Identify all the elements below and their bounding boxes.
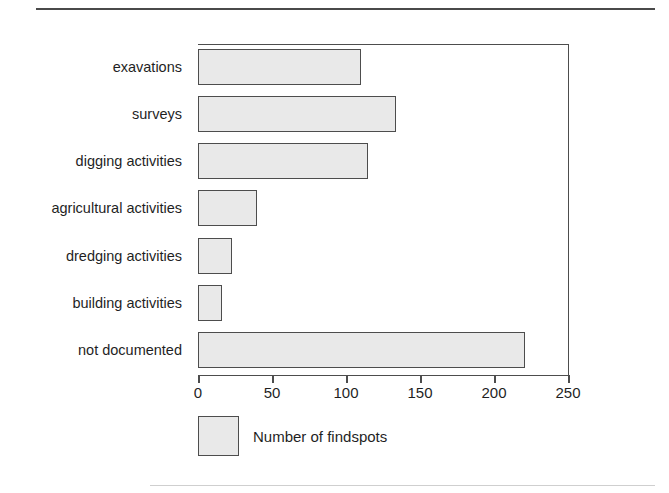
bar-row: [198, 185, 568, 232]
x-axis-tick: [346, 375, 348, 383]
legend-swatch-number-of-findspots: [198, 416, 239, 456]
x-axis-tick: [568, 375, 570, 383]
x-axis-tick: [272, 375, 274, 383]
bars-layer: [198, 44, 568, 374]
bar-agricultural-activities[interactable]: [198, 190, 257, 226]
x-axis: 0 50 100 150 200 250: [198, 375, 568, 409]
x-axis-tick: [420, 375, 422, 383]
x-axis-tick: [198, 375, 200, 383]
category-label-digging-activities: digging activities: [76, 138, 182, 185]
bar-chart-figure: exavations surveys digging activities ag…: [0, 0, 669, 493]
bar-row: [198, 327, 568, 374]
page-rule-top-icon: [36, 8, 655, 10]
x-axis-tick-label: 200: [481, 384, 506, 401]
bar-row: [198, 138, 568, 185]
bar-digging-activities[interactable]: [198, 143, 368, 179]
x-axis-tick-label: 150: [407, 384, 432, 401]
category-label-agricultural-activities: agricultural activities: [51, 185, 182, 232]
x-axis-tick-label: 50: [264, 384, 281, 401]
x-axis-tick: [494, 375, 496, 383]
page-rule-bottom-icon: [150, 485, 655, 486]
category-label-not-documented: not documented: [78, 327, 182, 374]
bar-row: [198, 280, 568, 327]
chart-legend: Number of findspots: [198, 416, 387, 456]
category-label-building-activities: building activities: [72, 280, 182, 327]
bar-dredging-activities[interactable]: [198, 238, 232, 274]
category-label-exavations: exavations: [113, 44, 182, 91]
bar-row: [198, 91, 568, 138]
category-label-dredging-activities: dredging activities: [66, 233, 182, 280]
legend-label-number-of-findspots: Number of findspots: [253, 428, 387, 445]
bar-surveys[interactable]: [198, 96, 396, 132]
x-axis-tick-label: 250: [555, 384, 580, 401]
bar-row: [198, 233, 568, 280]
x-axis-tick-label: 100: [333, 384, 358, 401]
category-label-surveys: surveys: [132, 91, 182, 138]
bar-not-documented[interactable]: [198, 332, 525, 368]
category-axis-labels: exavations surveys digging activities ag…: [0, 44, 190, 374]
bar-row: [198, 44, 568, 91]
x-axis-tick-label: 0: [194, 384, 202, 401]
bar-exavations[interactable]: [198, 49, 361, 85]
bar-building-activities[interactable]: [198, 285, 222, 321]
